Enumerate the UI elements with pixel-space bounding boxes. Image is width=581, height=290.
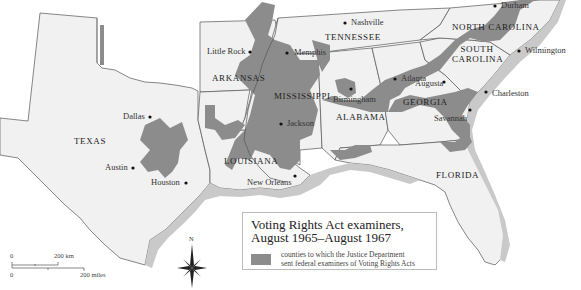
city-label-wilmington: Wilmington (525, 45, 566, 55)
scale-mi-zero: 0 (10, 271, 13, 278)
city-label-charleston: Charleston (492, 88, 529, 98)
scale-bar: 0 200 km 0 200 miles (10, 252, 100, 282)
legend-desc-line2: sent federal examiners of Voting Rights … (281, 260, 415, 269)
state-label-texas: TEXAS (74, 136, 106, 146)
state-label-tennessee: TENNESSEE (325, 32, 381, 42)
state-label-alabama: ALABAMA (336, 112, 386, 122)
state-label-south-carolina: SOUTH CAROLINA (452, 44, 502, 64)
legend-row: counties to which the Justice Department… (251, 251, 428, 268)
state-label-north-carolina: NORTH CAROLINA (452, 22, 540, 32)
map-legend: Voting Rights Act examiners, August 1965… (242, 212, 437, 270)
legend-description: counties to which the Justice Department… (281, 251, 415, 268)
city-label-memphis: Memphis (294, 47, 326, 57)
city-label-savannah: Savannah (434, 113, 467, 123)
legend-title-line2: August 1965–August 1967 (251, 231, 428, 244)
city-label-austin: Austin (105, 162, 128, 172)
state-label-mississippi: MISSISSIPPI (274, 91, 331, 101)
city-label-augusta: Augusta (415, 78, 443, 88)
city-label-dallas: Dallas (123, 111, 145, 121)
city-label-nashville: Nashville (351, 17, 384, 27)
compass-north-label: N (189, 235, 194, 242)
legend-swatch (251, 254, 271, 265)
city-label-jackson: Jackson (287, 118, 314, 128)
city-label-durham: Durham (501, 0, 529, 10)
state-label-georgia: GEORGIA (403, 97, 448, 107)
city-label-new-orleans: New Orleans (247, 177, 292, 187)
state-label-louisiana: LOUISIANA (224, 156, 278, 166)
state-label-arkansas: ARKANSAS (212, 73, 265, 83)
city-label-little-rock: Little Rock (207, 46, 245, 56)
city-label-houston: Houston (151, 177, 180, 187)
scale-km-zero: 0 (10, 252, 13, 259)
city-label-birmingham: Birmingham (333, 94, 376, 104)
state-label-florida: FLORIDA (436, 170, 479, 180)
scale-mi-label: 200 miles (80, 271, 105, 278)
scale-km-label: 200 km (54, 252, 74, 259)
compass-rose (177, 244, 207, 288)
